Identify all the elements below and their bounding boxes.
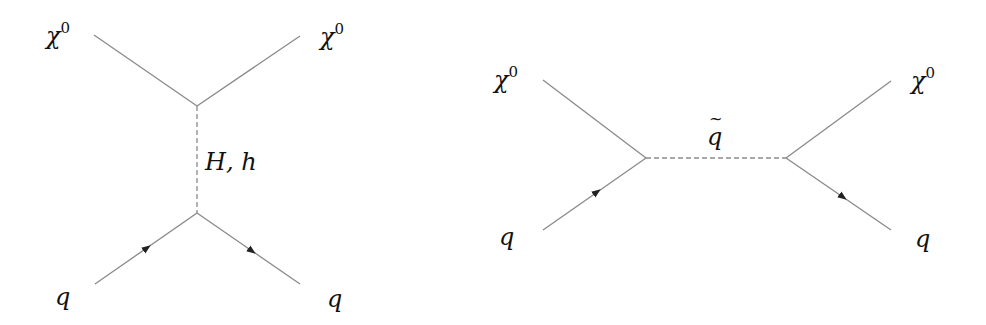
quark-line-in [543, 158, 646, 230]
label-chi0-top-right: χ0 [911, 68, 935, 93]
label-propagator-squark: q [707, 125, 722, 149]
fermion-line-chi-in [543, 80, 646, 158]
quark-line-in [95, 213, 197, 284]
label-chi0-top-right: χ0 [320, 24, 344, 49]
label-q-bottom-right: q [327, 287, 342, 311]
label-chi0-top-left: χ0 [46, 23, 70, 48]
diagram-t-channel [94, 35, 300, 284]
fermion-line-chi-in [94, 35, 197, 106]
fermion-line-chi-out [786, 81, 891, 158]
feynman-diagrams-canvas [0, 0, 986, 325]
label-q-bottom-left: q [499, 225, 514, 249]
label-q-bottom-right: q [915, 227, 930, 251]
label-chi0-top-left: χ0 [494, 67, 518, 92]
quark-line-out [786, 158, 891, 230]
quark-line-out [197, 213, 300, 284]
label-propagator-higgs: H, h [205, 150, 257, 174]
label-q-bottom-left: q [55, 285, 70, 309]
diagram-s-channel [543, 80, 891, 230]
fermion-line-chi-out [197, 36, 300, 106]
